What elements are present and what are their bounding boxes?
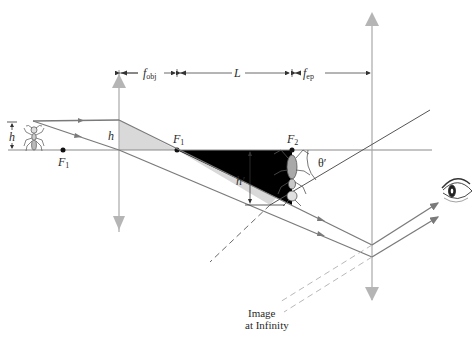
objective-lens	[112, 70, 126, 232]
label-h-image: h′	[236, 174, 245, 188]
ant-object-icon	[24, 125, 44, 151]
label-f-obj: fobj	[143, 66, 157, 81]
microscope-diagram: fobj L fep h F1 h F1 F2	[0, 0, 476, 337]
label-f1-left: F1	[57, 155, 69, 170]
label-h-object: h	[9, 130, 15, 144]
eye-icon	[442, 179, 472, 202]
label-L: L	[233, 66, 241, 80]
image-dashed-1	[280, 245, 372, 302]
label-image-line2: at Infinity	[245, 319, 289, 331]
eyepiece-bottom-arrow-icon	[365, 287, 379, 301]
focal-point-f1-left	[61, 148, 66, 153]
objective-top-arrow-icon	[112, 74, 126, 88]
label-f2: F2	[286, 132, 298, 147]
theta-arc	[307, 150, 316, 180]
label-image-line1: Image	[248, 307, 276, 319]
label-f1-right: F1	[172, 132, 184, 147]
dimension-bar	[119, 69, 370, 77]
image-dashed-2	[284, 257, 372, 312]
objective-bottom-arrow-icon	[113, 216, 125, 230]
eyepiece-lens	[365, 12, 379, 301]
label-f-ep: fep	[303, 66, 314, 81]
label-h-lens: h	[108, 129, 114, 143]
label-theta: θ′	[318, 156, 327, 170]
focal-point-f2	[290, 148, 295, 153]
dashed-extension	[210, 205, 270, 262]
eyepiece-top-arrow-icon	[365, 12, 379, 26]
